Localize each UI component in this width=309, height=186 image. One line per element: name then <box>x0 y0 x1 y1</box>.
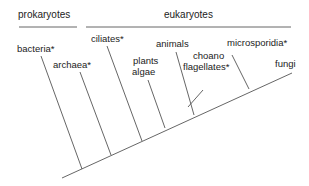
taxon-bacteria: bacteria* <box>17 43 55 54</box>
eukaryotes-label: eukaryotes <box>164 9 213 20</box>
taxon-ciliates: ciliates* <box>91 33 124 44</box>
tree-trunk <box>62 73 292 178</box>
taxon-archaea: archaea* <box>53 59 91 70</box>
branch-choanoflagellates <box>188 90 203 107</box>
taxon-fungi: fungi <box>275 58 296 69</box>
phylogenetic-tree <box>0 0 309 186</box>
taxon-choano: choano <box>193 50 224 61</box>
taxon-algae: algae <box>132 66 155 77</box>
branch-bacteria <box>41 56 82 169</box>
branch-archaea <box>80 72 111 155</box>
prokaryotes-label: prokaryotes <box>18 9 70 20</box>
taxon-animals: animals <box>156 38 189 49</box>
taxon-plants: plants <box>133 55 158 66</box>
taxon-flagellates: flagellates* <box>183 61 229 72</box>
branch-plants-algae <box>148 80 165 128</box>
taxon-microsporidia: microsporidia* <box>227 37 287 48</box>
branch-microsporidia <box>232 55 249 89</box>
